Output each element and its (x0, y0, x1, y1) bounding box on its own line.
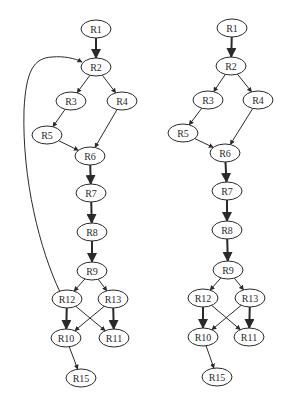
node-label: R12 (59, 294, 76, 305)
edge-r2-to-r4 (237, 74, 251, 92)
edge-r9-to-r12 (74, 279, 85, 291)
left-graph-nodes: R1R2R3R4R5R6R7R8R9R12R13R10R11R15 (32, 20, 137, 387)
node-r15: R15 (66, 369, 96, 387)
edge-r10-to-r15 (69, 347, 77, 369)
right-graph-nodes: R1R2R3R4R5R6R7R8R9R12R13R10R11R15 (168, 19, 273, 386)
left-flow-graph: R1R2R3R4R5R6R7R8R9R12R13R10R11R15 (24, 20, 137, 387)
edge-r12-to-r11 (76, 306, 105, 330)
right-graph-edges (189, 37, 253, 368)
node-label: R11 (241, 332, 257, 343)
node-r4: R4 (243, 91, 273, 109)
node-r13: R13 (98, 290, 128, 308)
node-r3: R3 (56, 92, 86, 110)
edge-r1-to-r2 (231, 37, 232, 57)
node-r8: R8 (212, 221, 242, 239)
node-label: R9 (222, 265, 234, 276)
node-r11: R11 (99, 329, 129, 347)
node-r1: R1 (81, 20, 111, 38)
node-label: R7 (85, 188, 97, 199)
node-label: R1 (226, 23, 238, 34)
left-graph-edges (24, 38, 117, 369)
node-label: R11 (106, 333, 122, 344)
edge-r13-to-r11 (249, 307, 250, 328)
edge-r13-to-r10 (75, 306, 104, 330)
node-r7: R7 (76, 184, 106, 202)
node-label: R6 (219, 148, 231, 159)
node-label: R10 (195, 332, 212, 343)
edge-r8-to-r9 (227, 239, 228, 261)
edge-r5-to-r6 (59, 141, 79, 151)
node-r8: R8 (77, 223, 107, 241)
node-r6: R6 (210, 144, 240, 162)
node-label: R8 (221, 225, 233, 236)
node-r5: R5 (32, 126, 62, 144)
node-r5: R5 (168, 124, 198, 142)
node-r2: R2 (81, 58, 111, 76)
node-label: R12 (195, 293, 212, 304)
edge-r12-to-r10 (66, 308, 67, 329)
node-label: R10 (58, 333, 75, 344)
edge-r2-to-r4 (102, 75, 115, 93)
edge-r10-to-r15 (206, 346, 214, 368)
edge-r4-to-r6 (95, 109, 117, 147)
node-label: R8 (86, 227, 98, 238)
edge-r7-to-r8 (91, 202, 92, 223)
edge-r13-to-r11 (113, 308, 114, 329)
node-r3: R3 (193, 91, 223, 109)
node-r7: R7 (212, 182, 242, 200)
edge-r6-to-r7 (225, 162, 226, 182)
graph-canvas: R1R2R3R4R5R6R7R8R9R12R13R10R11R15 R1R2R3… (0, 0, 294, 407)
node-label: R1 (90, 24, 102, 35)
node-r13: R13 (235, 289, 265, 307)
edge-r9-to-r12 (210, 278, 221, 290)
node-r9: R9 (213, 261, 243, 279)
node-r10: R10 (188, 328, 218, 346)
node-r4: R4 (107, 92, 137, 110)
edge-r2-to-r3 (77, 75, 90, 93)
node-r12: R12 (52, 290, 82, 308)
node-label: R5 (41, 130, 53, 141)
node-label: R15 (209, 372, 226, 383)
edge-r3-to-r5 (53, 109, 65, 126)
node-r15: R15 (202, 368, 232, 386)
node-r6: R6 (75, 147, 105, 165)
node-r2: R2 (216, 57, 246, 75)
edge-r5-to-r6 (195, 139, 214, 148)
edge-r3-to-r5 (189, 108, 202, 125)
node-label: R6 (84, 151, 96, 162)
node-r11: R11 (234, 328, 264, 346)
node-label: R3 (65, 96, 77, 107)
node-r12: R12 (188, 289, 218, 307)
node-label: R2 (225, 61, 237, 72)
edge-r6-to-r7 (90, 165, 91, 184)
node-r1: R1 (217, 19, 247, 37)
node-r9: R9 (77, 262, 107, 280)
node-label: R2 (90, 62, 102, 73)
edge-r2-to-r3 (214, 74, 226, 91)
node-label: R9 (86, 266, 98, 277)
node-label: R4 (252, 95, 264, 106)
node-label: R13 (105, 294, 122, 305)
edge-r9-to-r13 (234, 278, 243, 290)
node-label: R4 (116, 96, 128, 107)
node-r10: R10 (51, 329, 81, 347)
node-label: R15 (73, 373, 90, 384)
node-label: R7 (221, 186, 233, 197)
edge-r9-to-r13 (98, 279, 107, 291)
node-label: R3 (202, 95, 214, 106)
edge-r4-to-r6 (230, 108, 253, 144)
node-label: R13 (242, 293, 259, 304)
node-label: R5 (177, 128, 189, 139)
right-flow-graph: R1R2R3R4R5R6R7R8R9R12R13R10R11R15 (168, 19, 273, 386)
